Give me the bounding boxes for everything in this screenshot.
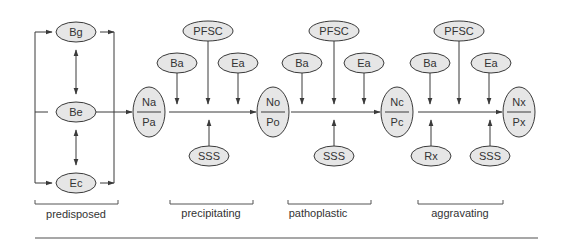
flow-diagram: Bg Be Ec predisposed Na Pa No Po Nc Pc — [0, 0, 566, 243]
node-rx: Rx — [411, 146, 451, 166]
state-pc-label: Pc — [391, 116, 404, 128]
precipitating-label: precipitating — [181, 207, 240, 219]
node-pfsc-label: PFSC — [444, 25, 473, 37]
node-sss-label: SSS — [323, 150, 345, 162]
precipitating-bracket — [170, 200, 253, 204]
node-pfsc-label: PFSC — [193, 25, 222, 37]
node-ba: Ba — [410, 53, 450, 73]
pathoplastic-label: pathoplastic — [289, 207, 348, 219]
state-nx-label: Nx — [512, 96, 526, 108]
node-sss-label: SSS — [198, 150, 220, 162]
phase-precipitating: PFSC Ba Ea SSS precipitating — [157, 21, 258, 219]
state-px-label: Px — [513, 116, 526, 128]
node-ea-label: Ea — [231, 57, 245, 69]
node-ba: Ba — [282, 53, 322, 73]
aggravating-bracket — [418, 200, 503, 204]
node-ea: Ea — [218, 53, 258, 73]
node-pfsc: PFSC — [434, 21, 484, 41]
state-node-no-po: No Po — [257, 87, 289, 137]
node-be: Be — [56, 102, 96, 122]
node-rx-label: Rx — [424, 150, 438, 162]
node-ba: Ba — [157, 53, 197, 73]
node-be-label: Be — [69, 106, 82, 118]
aggravating-label: aggravating — [431, 207, 489, 219]
node-ea: Ea — [344, 53, 384, 73]
node-sss-label: SSS — [479, 150, 501, 162]
state-pa-label: Pa — [142, 116, 156, 128]
node-sss: SSS — [189, 146, 229, 166]
node-sss: SSS — [470, 146, 510, 166]
node-ba-label: Ba — [295, 57, 309, 69]
state-node-na-pa: Na Pa — [133, 87, 165, 137]
state-po-label: Po — [266, 116, 279, 128]
node-ba-label: Ba — [423, 57, 437, 69]
node-bg: Bg — [56, 22, 96, 42]
node-pfsc: PFSC — [309, 21, 359, 41]
node-ec-label: Ec — [70, 177, 83, 189]
node-bg-label: Bg — [69, 26, 82, 38]
state-nc-label: Nc — [390, 96, 404, 108]
feed-line-to-bg — [35, 32, 52, 112]
predisposed-bracket — [35, 200, 118, 204]
node-ec: Ec — [56, 173, 96, 193]
predisposed-group: Bg Be Ec predisposed — [35, 22, 132, 220]
predisposed-label: predisposed — [46, 208, 106, 220]
node-ba-label: Ba — [170, 57, 184, 69]
node-ea-label: Ea — [357, 57, 371, 69]
feed-line-to-ec — [35, 112, 52, 183]
phase-pathoplastic: PFSC Ba Ea SSS pathoplastic — [282, 21, 384, 219]
state-node-nx-px: Nx Px — [503, 87, 535, 137]
node-pfsc: PFSC — [183, 21, 233, 41]
node-ea: Ea — [471, 53, 511, 73]
node-sss: SSS — [314, 146, 354, 166]
phase-aggravating: PFSC Ba Ea Rx SSS aggravating — [410, 21, 511, 219]
state-no-label: No — [266, 96, 280, 108]
state-node-nc-pc: Nc Pc — [381, 87, 413, 137]
node-ea-label: Ea — [484, 57, 498, 69]
pathoplastic-bracket — [288, 200, 371, 204]
state-na-label: Na — [142, 96, 157, 108]
node-pfsc-label: PFSC — [319, 25, 348, 37]
